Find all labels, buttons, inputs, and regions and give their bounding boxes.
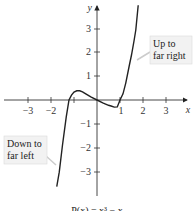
svg-text:Up to: Up to xyxy=(153,38,176,49)
cubic-curve xyxy=(57,5,138,186)
cubic-function-plot: −3 −2 1 2 3 x 3 2 1 −1 −2 −3 y Up to far… xyxy=(0,0,195,211)
x-tick-label: 3 xyxy=(164,105,169,116)
svg-text:far right: far right xyxy=(153,50,186,61)
y-tick-label: −3 xyxy=(80,166,91,177)
y-tick-label: 3 xyxy=(86,23,91,34)
y-tick-label: −1 xyxy=(80,118,91,129)
annotation-down-to-far-left: Down to far left xyxy=(4,136,56,165)
x-tick-label: −3 xyxy=(23,105,34,116)
svg-text:far left: far left xyxy=(7,150,34,161)
x-tick-label: 1 xyxy=(119,105,124,116)
x-tick-label: −2 xyxy=(46,105,57,116)
annotation-up-to-far-right: Up to far right xyxy=(137,36,192,64)
x-axis-label: x xyxy=(185,104,191,115)
y-tick-label: 2 xyxy=(86,46,91,57)
y-tick-label: 1 xyxy=(86,70,91,81)
y-tick-label: −2 xyxy=(80,142,91,153)
function-caption: P(x) = x³ − x xyxy=(71,205,123,211)
x-tick-label: 2 xyxy=(141,105,146,116)
y-axis-label: y xyxy=(87,2,93,13)
svg-text:Down to: Down to xyxy=(7,138,42,149)
